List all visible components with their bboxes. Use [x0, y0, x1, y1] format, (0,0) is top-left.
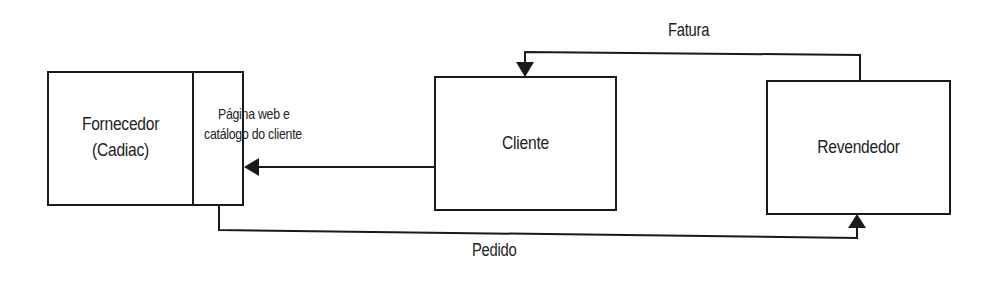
fornecedor-label-line1: Fornecedor: [61, 113, 180, 135]
fornecedor-label: Fornecedor (Cadiac): [61, 113, 180, 161]
cliente-label-text: Cliente: [502, 132, 549, 153]
fatura-edge-label: Fatura: [668, 20, 709, 41]
pagina-label-line2: catálogo do cliente: [204, 124, 302, 144]
pagina-label-line1: Página web e: [204, 104, 302, 124]
revendedor-label-text: Revendedor: [817, 136, 899, 157]
cliente-label: Cliente: [451, 132, 599, 154]
fatura-arrowhead-icon: [516, 62, 534, 77]
pagina-label: Página web e catálogo do cliente: [204, 104, 302, 144]
pedido-edge-label: Pedido: [472, 240, 516, 261]
pedido-arrowhead-icon: [848, 214, 866, 228]
cliente-pagina-arrowhead-icon: [244, 158, 259, 176]
fornecedor-label-line2: (Cadiac): [61, 139, 180, 161]
revendedor-label: Revendedor: [783, 136, 933, 158]
